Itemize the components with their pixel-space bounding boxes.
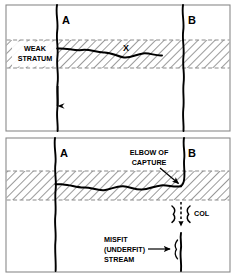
weak-stratum-label-line2: STRATUM xyxy=(18,54,53,63)
panel-after: A ELBOW OF CAPTURE B COL MISFIT (UNDERFI… xyxy=(6,138,230,272)
col-label: COL xyxy=(194,209,210,218)
stream-b-label-top: B xyxy=(188,14,196,26)
misfit-stream-path xyxy=(181,233,182,271)
stream-a-bottom xyxy=(55,138,56,271)
misfit-stream-label-line2: (UNDERFIT) xyxy=(104,245,146,254)
stream-a-top xyxy=(57,5,58,131)
panel-before: WEAK STRATUM A B X xyxy=(6,5,230,131)
diagram-canvas: WEAK STRATUM A B X A ELBOW OF CA xyxy=(0,0,236,277)
weak-stratum-band-bottom xyxy=(7,171,230,200)
stream-a-label-bottom: A xyxy=(60,147,68,159)
elbow-of-capture-label-line2: CAPTURE xyxy=(132,158,167,167)
stream-b-label-bottom: B xyxy=(188,147,196,159)
misfit-stream-label-line1: MISFIT xyxy=(104,235,128,244)
elbow-of-capture-label-line1: ELBOW OF xyxy=(130,148,169,157)
stream-b-top xyxy=(183,5,184,131)
stream-capture-figure: WEAK STRATUM A B X A ELBOW OF CA xyxy=(0,0,236,277)
tributary-x-label: X xyxy=(123,43,129,53)
misfit-stream-label-line3: STREAM xyxy=(104,255,134,264)
weak-stratum-label-line1: WEAK xyxy=(24,44,47,53)
stream-a-label-top: A xyxy=(62,14,70,26)
